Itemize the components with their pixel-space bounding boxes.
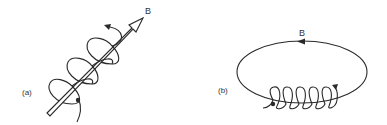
helix-front (72, 24, 122, 122)
particle-dot-icon (271, 102, 275, 106)
rotation-arrowhead-icon (104, 24, 111, 30)
panel-b-label: (b) (218, 86, 228, 95)
panel-a-label: (a) (22, 88, 32, 97)
field-loop (237, 41, 367, 103)
panel-a: (a) B (22, 6, 151, 122)
field-arrow-icon (47, 18, 143, 116)
field-direction-arrowhead-icon (297, 39, 305, 45)
rotation-arrowhead-icon (332, 84, 338, 90)
helix-back (49, 38, 112, 104)
particle-dot-icon (76, 98, 80, 102)
magnetic-field-diagram: (a) B B (b) (0, 0, 387, 125)
field-b-label-a: B (145, 6, 151, 16)
field-b-label-b: B (299, 28, 305, 38)
panel-b: B (b) (218, 28, 367, 109)
